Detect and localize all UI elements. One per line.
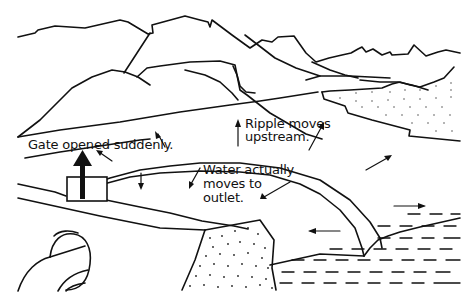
gate — [67, 177, 107, 201]
ripple-label-line2: upstream. — [245, 130, 309, 144]
water-label-line3: outlet. — [203, 191, 244, 205]
water-label-line1: Water actually — [203, 163, 294, 177]
dotted-bank — [182, 220, 276, 290]
gate-label: Gate opened suddenly. — [28, 138, 173, 152]
arrow-right-icon — [394, 203, 426, 209]
mountain-range — [18, 16, 460, 139]
arrow-up-ripple-icon — [235, 119, 241, 146]
diagram-drawing — [0, 0, 474, 308]
outlet-pipe — [18, 231, 90, 291]
sandy-plateau — [322, 67, 460, 141]
canal-channel — [18, 92, 318, 230]
water-label-line2: moves to — [203, 177, 262, 191]
arrow-down-left-outlet-icon — [260, 182, 290, 199]
canal-ripple-diagram: Gate opened suddenly. Ripple moves upstr… — [0, 0, 474, 308]
arrow-up-right-crest-icon — [366, 155, 392, 170]
arrow-left-icon — [308, 228, 340, 234]
